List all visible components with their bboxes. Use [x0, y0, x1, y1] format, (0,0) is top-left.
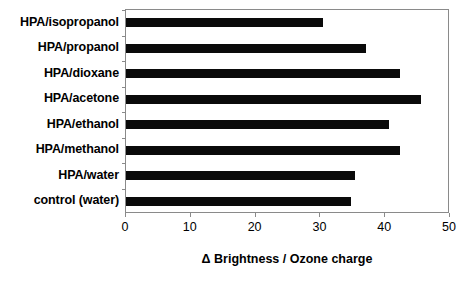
bar: [126, 197, 351, 206]
x-axis-tick: [384, 213, 385, 217]
y-axis-tick: [122, 163, 126, 164]
bars-container: [126, 10, 448, 212]
x-axis-tick: [319, 213, 320, 217]
y-axis-tick: [122, 87, 126, 88]
x-axis-tick: [255, 213, 256, 217]
bar: [126, 44, 366, 53]
x-axis-tick-label: 0: [105, 220, 145, 234]
x-axis-tick-label: 50: [429, 220, 469, 234]
x-axis-tick-label: 30: [299, 220, 339, 234]
x-axis-tick-label: 40: [364, 220, 404, 234]
bar: [126, 120, 389, 129]
category-label: HPA/dioxane: [44, 66, 119, 80]
category-label: HPA/isopropanol: [20, 15, 119, 29]
x-axis-tick-label: 20: [235, 220, 275, 234]
category-label: HPA/methanol: [36, 142, 119, 156]
bar: [126, 69, 400, 78]
y-axis-tick: [122, 112, 126, 113]
y-axis-tick: [122, 10, 126, 11]
bar: [126, 18, 323, 27]
x-axis-tick-label: 10: [170, 220, 210, 234]
bar: [126, 95, 421, 104]
bar: [126, 146, 400, 155]
bar: [126, 171, 355, 180]
y-axis-tick: [122, 189, 126, 190]
category-label: HPA/acetone: [44, 91, 119, 105]
plot-area: [125, 9, 449, 213]
y-axis-tick: [122, 36, 126, 37]
y-axis-tick: [122, 138, 126, 139]
category-label: HPA/water: [58, 168, 119, 182]
category-label: control (water): [34, 193, 119, 207]
category-label: HPA/propanol: [38, 40, 119, 54]
x-axis-title: Δ Brightness / Ozone charge: [125, 252, 449, 266]
y-axis-tick: [122, 61, 126, 62]
category-axis-labels: HPA/isopropanolHPA/propanolHPA/dioxaneHP…: [0, 9, 122, 213]
category-label: HPA/ethanol: [47, 117, 119, 131]
x-axis-tick: [190, 213, 191, 217]
x-axis-tick: [449, 213, 450, 217]
x-axis-tick: [125, 213, 126, 217]
bar-chart: HPA/isopropanolHPA/propanolHPA/dioxaneHP…: [0, 0, 473, 281]
